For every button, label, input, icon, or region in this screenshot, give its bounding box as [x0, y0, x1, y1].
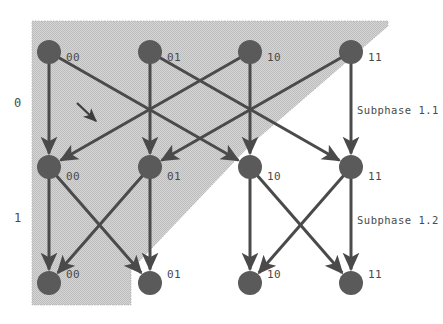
subphase-label: Subphase 1.1 [357, 104, 439, 116]
network-node[interactable] [37, 271, 61, 295]
node-label: 10 [267, 170, 281, 183]
node-label: 11 [368, 268, 382, 281]
network-node[interactable] [339, 40, 363, 64]
node-label: 00 [66, 51, 80, 64]
network-node[interactable] [238, 271, 262, 295]
row-label: 1 [14, 211, 22, 225]
network-node[interactable] [37, 40, 61, 64]
row-label: 0 [14, 96, 22, 110]
figure-canvas: 000110110001101100011011 01 Subphase 1.1… [0, 0, 443, 324]
subphase-label: Subphase 1.2 [357, 214, 439, 226]
node-label: 11 [368, 170, 382, 183]
network-node[interactable] [138, 40, 162, 64]
node-label: 00 [66, 170, 80, 183]
row-label-group: 01 [14, 96, 22, 225]
node-label: 01 [167, 268, 181, 281]
network-node[interactable] [138, 271, 162, 295]
network-node[interactable] [37, 155, 61, 179]
network-node[interactable] [339, 271, 363, 295]
network-node[interactable] [339, 155, 363, 179]
phase-label-group: Subphase 1.1Subphase 1.2 [357, 104, 439, 226]
network-node[interactable] [238, 155, 262, 179]
node-label: 10 [267, 268, 281, 281]
node-label: 01 [167, 170, 181, 183]
node-label: 11 [368, 51, 382, 64]
node-label: 10 [267, 51, 281, 64]
node-label: 01 [167, 51, 181, 64]
network-node[interactable] [138, 155, 162, 179]
node-label: 00 [66, 268, 80, 281]
network-node[interactable] [238, 40, 262, 64]
network-diagram: 000110110001101100011011 01 Subphase 1.1… [0, 0, 443, 324]
